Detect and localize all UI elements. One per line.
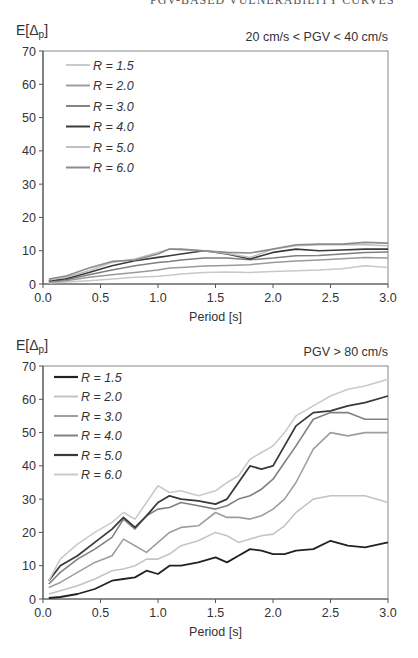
x-tick-label: 0.5	[92, 291, 109, 305]
y-tick-label: 60	[22, 78, 36, 92]
y-tick-label: 70	[22, 45, 36, 59]
x-tick-label: 2.0	[264, 606, 281, 620]
x-tick-label: 0.0	[34, 606, 51, 620]
legend-label: R = 2.0	[81, 390, 122, 404]
legend: R = 1.5R = 2.0R = 3.0R = 4.0R = 5.0R = 6…	[54, 371, 122, 483]
legend: R = 1.5R = 2.0R = 3.0R = 4.0R = 5.0R = 6…	[66, 59, 134, 176]
legend-label: R = 2.0	[93, 79, 134, 93]
legend-label: R = 5.0	[81, 449, 122, 463]
x-tick-label: 1.5	[207, 291, 224, 305]
legend-label: R = 4.0	[93, 120, 134, 134]
legend-label: R = 6.0	[93, 161, 134, 175]
y-tick-label: 70	[22, 360, 36, 374]
x-tick-label: 0.0	[34, 291, 51, 305]
y-tick-label: 40	[22, 459, 36, 473]
legend-label: R = 6.0	[81, 468, 122, 482]
series-line	[49, 266, 388, 283]
y-tick-label: 40	[22, 144, 36, 158]
y-tick-label: 50	[22, 111, 36, 125]
series-line	[49, 242, 388, 279]
y-tick-label: 50	[22, 426, 36, 440]
y-tick-label: 30	[22, 493, 36, 507]
legend-label: R = 1.5	[93, 59, 134, 73]
legend-label: R = 5.0	[93, 141, 134, 155]
x-tick-label: 0.5	[92, 606, 109, 620]
y-tick-label: 20	[22, 211, 36, 225]
y-tick-label: 10	[22, 559, 36, 573]
chart-title: PGV > 80 cm/s	[304, 345, 388, 359]
x-axis-label: Period [s]	[189, 625, 242, 639]
y-tick-label: 30	[22, 178, 36, 192]
x-tick-label: 1.5	[207, 606, 224, 620]
x-tick-label: 3.0	[379, 606, 396, 620]
y-tick-label: 0	[29, 278, 36, 292]
legend-label: R = 4.0	[81, 429, 122, 443]
x-tick-label: 1.0	[149, 606, 166, 620]
y-axis-label: E[Δp]	[16, 337, 48, 355]
y-tick-label: 60	[22, 393, 36, 407]
series-line	[49, 541, 388, 598]
chart-bottom: E[Δp]PGV > 80 cm/s0102030405060700.00.51…	[0, 315, 418, 658]
x-tick-label: 2.5	[322, 291, 339, 305]
x-tick-label: 3.0	[379, 291, 396, 305]
series-group	[49, 242, 388, 283]
y-tick-label: 0	[29, 593, 36, 607]
legend-label: R = 1.5	[81, 371, 122, 385]
y-tick-label: 10	[22, 244, 36, 258]
chart-title: 20 cm/s < PGV < 40 cm/s	[246, 30, 388, 44]
y-tick-label: 20	[22, 526, 36, 540]
y-axis-label: E[Δp]	[16, 22, 48, 40]
x-tick-label: 2.5	[322, 606, 339, 620]
x-tick-label: 2.0	[264, 291, 281, 305]
chart-top: E[Δp]20 cm/s < PGV < 40 cm/s010203040506…	[0, 0, 418, 330]
legend-label: R = 3.0	[81, 410, 122, 424]
legend-label: R = 3.0	[93, 100, 134, 114]
x-tick-label: 1.0	[149, 291, 166, 305]
